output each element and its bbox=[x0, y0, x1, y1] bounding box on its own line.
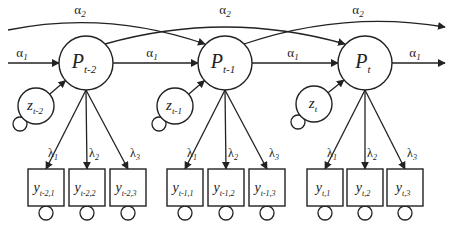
error-loop-y_t-2,1 bbox=[39, 206, 53, 220]
indicator-node-y_t,3 bbox=[387, 169, 423, 206]
error-loop-y_t,1 bbox=[318, 206, 332, 220]
diagram-canvas: α1α1α1α1α2α2α2Pt-2Pt-1Ptzt-2zt-1ztλ1yt-2… bbox=[0, 0, 451, 236]
disturbance-path-z_t bbox=[328, 80, 344, 93]
loading-label-y_t,3: λ3 bbox=[407, 146, 417, 162]
disturbance-path-z_t-2 bbox=[50, 81, 66, 95]
error-loop-y_t-2,2 bbox=[80, 206, 94, 220]
alpha2-label: α2 bbox=[352, 2, 364, 19]
disturbance-path-z_t-1 bbox=[189, 81, 205, 95]
alpha1-label: α1 bbox=[146, 45, 157, 62]
loading-path-y_t-1,2 bbox=[225, 90, 226, 169]
indicator-node-y_t,2 bbox=[347, 169, 383, 206]
alpha2-path-2 bbox=[244, 21, 445, 44]
sem-diagram: α1α1α1α1α2α2α2Pt-2Pt-1Ptzt-2zt-1ztλ1yt-2… bbox=[0, 0, 451, 236]
alpha2-path-0 bbox=[8, 23, 205, 44]
alpha2-label: α2 bbox=[74, 2, 86, 19]
alpha1-label: α1 bbox=[409, 45, 420, 62]
error-loop-y_t,3 bbox=[398, 206, 412, 220]
loading-label-y_t-1,2: λ2 bbox=[228, 146, 238, 162]
loading-label-y_t,2: λ2 bbox=[367, 146, 377, 162]
alpha2-label: α2 bbox=[219, 2, 231, 19]
alpha1-label: α1 bbox=[16, 45, 27, 62]
loading-label-y_t-2,3: λ3 bbox=[130, 146, 140, 162]
error-loop-y_t-1,3 bbox=[260, 206, 274, 220]
error-loop-y_t,2 bbox=[358, 206, 372, 220]
error-loop-y_t-1,1 bbox=[178, 206, 192, 220]
loading-label-y_t-1,3: λ3 bbox=[269, 146, 279, 162]
loading-path-y_t-2,2 bbox=[86, 90, 87, 169]
alpha1-label: α1 bbox=[287, 45, 298, 62]
indicator-node-y_t,1 bbox=[307, 169, 343, 206]
loading-label-y_t-2,2: λ2 bbox=[89, 146, 99, 162]
error-loop-y_t-1,2 bbox=[219, 206, 233, 220]
error-loop-y_t-2,3 bbox=[121, 206, 135, 220]
